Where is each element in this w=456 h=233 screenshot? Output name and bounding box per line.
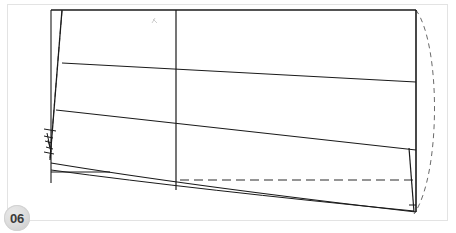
technical-drawing-canvas [0,0,456,233]
bottom-sweep-curve [51,163,416,212]
curves-group [51,163,416,212]
faint-annotation-mark [152,18,157,23]
horizontal-rule-2 [56,110,416,150]
dashed-curves-group [414,10,435,214]
solid-lines-group [50,10,416,212]
horizontal-rule-1 [62,63,416,82]
left-zigzag-notch-marks [44,129,56,154]
dashed-lines-group [50,11,416,180]
page-number-badge[interactable]: 06 [4,205,30,231]
right-bulge-dashed-arc [414,10,435,214]
faint-marks-group [152,18,157,23]
page-number-label: 06 [10,211,24,226]
drawing-viewer: 06 [0,0,456,233]
